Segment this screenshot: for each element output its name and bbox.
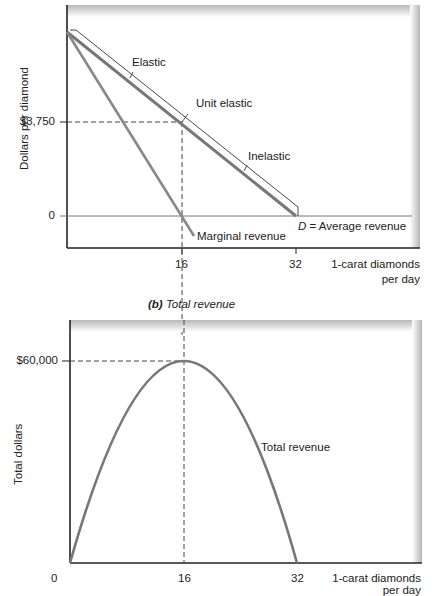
inelastic-label: Inelastic bbox=[248, 150, 290, 162]
elastic-label: Elastic bbox=[132, 56, 166, 68]
top-x-label-2: per day bbox=[300, 273, 420, 285]
mr-label: Marginal revenue bbox=[197, 230, 286, 242]
x-tick-16-b: 16 bbox=[178, 572, 191, 584]
demand-label: D = Average revenue bbox=[298, 220, 406, 232]
elasticity-bracket bbox=[70, 30, 298, 216]
x-tick-16: 16 bbox=[175, 258, 188, 270]
y-tick-60000: $60,000 bbox=[0, 354, 58, 366]
top-panel bbox=[60, 5, 420, 338]
bottom-x-label-1: 1-carat diamonds bbox=[300, 572, 421, 584]
right-shade bbox=[410, 5, 420, 248]
bottom-panel bbox=[62, 320, 422, 563]
bottom-y-axis-label: Total dollars bbox=[12, 424, 24, 485]
top-shade bbox=[67, 5, 420, 17]
unit-elastic-label: Unit elastic bbox=[196, 97, 252, 109]
y-tick-price: $3,750 bbox=[0, 115, 55, 127]
bottom-x-label-2: per day bbox=[300, 584, 421, 596]
top-x-label-1: 1-carat diamonds bbox=[300, 258, 420, 270]
marginal-revenue-curve bbox=[67, 32, 194, 236]
panel-b-title: (b) Total revenue bbox=[148, 298, 235, 310]
y-tick-zero: 0 bbox=[0, 209, 55, 221]
tr-label: Total revenue bbox=[261, 441, 330, 453]
x-tick-0: 0 bbox=[51, 572, 57, 584]
